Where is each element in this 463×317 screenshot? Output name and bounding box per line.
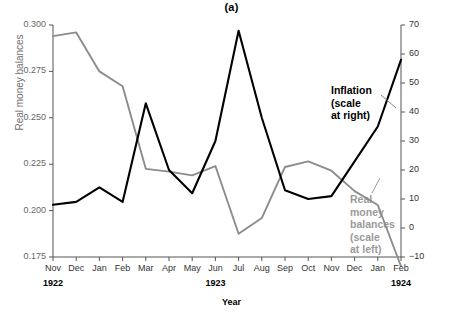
y-tick-label-left: 0.275 xyxy=(2,65,46,75)
y-tick-label-left: 0.200 xyxy=(2,205,46,215)
y-tick-label-right: −10 xyxy=(409,251,424,261)
x-tick-label: Feb xyxy=(381,263,421,273)
y-tick-label-left: 0.250 xyxy=(2,112,46,122)
axes-group xyxy=(49,25,405,261)
y-tick-label-right: 60 xyxy=(409,48,419,58)
y-tick-label-right: 40 xyxy=(409,106,419,116)
y-tick-label-left: 0.175 xyxy=(2,251,46,261)
y-tick-label-right: 70 xyxy=(409,19,419,29)
leader-line-money xyxy=(372,178,380,193)
x-year-label: 1923 xyxy=(193,278,237,288)
series-group xyxy=(53,31,401,266)
y-tick-label-left: 0.225 xyxy=(2,158,46,168)
axis-frame xyxy=(53,25,401,257)
y-tick-label-right: 20 xyxy=(409,164,419,174)
y-tick-label-right: 0 xyxy=(409,222,414,232)
y-tick-label-right: 30 xyxy=(409,135,419,145)
y-tick-label-left: 0.300 xyxy=(2,19,46,29)
series-line-inflation xyxy=(53,31,401,205)
x-year-label: 1922 xyxy=(31,278,75,288)
series-line-real-money-balances xyxy=(53,32,401,266)
y-tick-label-right: 10 xyxy=(409,193,419,203)
y-tick-label-right: 50 xyxy=(409,77,419,87)
figure-panel: (a) Real money balances Monthly inflatio… xyxy=(0,0,463,317)
x-year-label: 1924 xyxy=(379,278,423,288)
